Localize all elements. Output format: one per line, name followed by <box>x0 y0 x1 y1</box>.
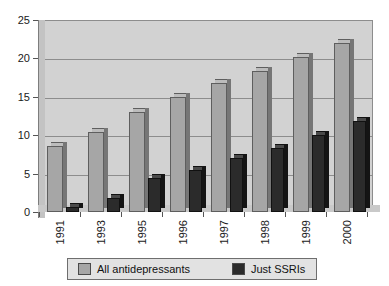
x-tick-label-1993: 1993 <box>95 220 107 244</box>
y-tick-label: 10 <box>2 130 30 141</box>
legend-entry-all-antidepressants: All antidepressants <box>78 259 190 279</box>
bar-side-face <box>63 142 67 208</box>
bar-all-antidepressants-1999 <box>293 57 309 212</box>
bar-front-face <box>334 43 350 212</box>
y-tick-label: 25 <box>2 15 30 26</box>
bar-front-face <box>353 121 366 212</box>
legend-entry-just-ssris: Just SSRIs <box>232 259 305 279</box>
bar-just-ssris-1999 <box>312 135 325 212</box>
bar-side-face <box>284 144 288 208</box>
bar-front-face <box>148 178 161 212</box>
bar-just-ssris-1997 <box>230 158 243 212</box>
x-tick-mark <box>39 212 40 217</box>
x-tick-mark <box>367 212 368 217</box>
bar-side-face <box>202 166 206 208</box>
bar-all-antidepressants-1998 <box>252 71 268 212</box>
bar-front-face <box>293 57 309 212</box>
bar-side-face <box>325 131 329 208</box>
x-tick-label-1997: 1997 <box>218 220 230 244</box>
y-tick-label: 20 <box>2 53 30 64</box>
bar-all-antidepressants-1996 <box>170 97 186 212</box>
y-tick-label: 5 <box>2 169 30 180</box>
bar-just-ssris-1996 <box>189 170 202 212</box>
x-tick-label-1998: 1998 <box>259 220 271 244</box>
bar-front-face <box>170 97 186 212</box>
x-tick-mark <box>203 212 204 217</box>
x-tick-mark <box>162 212 163 217</box>
bar-front-face <box>189 170 202 212</box>
x-tick-mark <box>121 212 122 217</box>
bar-all-antidepressants-1995 <box>129 112 145 212</box>
bar-all-antidepressants-1997 <box>211 83 227 212</box>
y-tick-label: 0 <box>2 207 30 218</box>
bar-just-ssris-1995 <box>148 178 161 212</box>
bar-front-face <box>312 135 325 212</box>
bar-just-ssris-2000 <box>353 121 366 212</box>
x-tick-mark <box>244 212 245 217</box>
bar-front-face <box>252 71 268 212</box>
x-tick-label-1999: 1999 <box>300 220 312 244</box>
x-tick-label-1996: 1996 <box>177 220 189 244</box>
bars-layer <box>38 20 373 212</box>
legend-swatch-icon <box>78 263 91 275</box>
bar-front-face <box>230 158 243 212</box>
bar-chart: 25 20 15 10 5 0 <box>0 0 389 286</box>
bar-all-antidepressants-2000 <box>334 43 350 212</box>
bar-side-face <box>120 194 124 208</box>
bar-all-antidepressants-1991 <box>47 146 63 212</box>
bar-side-face <box>79 203 83 208</box>
legend-label: Just SSRIs <box>251 263 305 275</box>
bar-front-face <box>88 132 104 212</box>
y-tick-label: 15 <box>2 92 30 103</box>
bar-front-face <box>107 198 120 212</box>
bar-front-face <box>271 148 284 212</box>
x-tick-mark <box>80 212 81 217</box>
y-axis: 25 20 15 10 5 0 <box>0 0 30 286</box>
bar-side-face <box>366 117 370 208</box>
bar-side-face <box>104 128 108 208</box>
x-tick-mark <box>326 212 327 217</box>
bar-front-face <box>129 112 145 212</box>
bar-all-antidepressants-1993 <box>88 132 104 212</box>
bar-front-face <box>47 146 63 212</box>
x-tick-label-2000: 2000 <box>341 220 353 244</box>
x-tick-label-1995: 1995 <box>136 220 148 244</box>
bar-just-ssris-1993 <box>107 198 120 212</box>
x-tick-label-1991: 1991 <box>54 220 66 244</box>
x-axis: 1991 1993 1995 1996 1997 1998 1999 2000 <box>38 212 373 257</box>
bar-side-face <box>161 174 165 208</box>
x-tick-mark <box>285 212 286 217</box>
bar-side-face <box>243 154 247 208</box>
chart-legend: All antidepressants Just SSRIs <box>67 258 317 280</box>
legend-label: All antidepressants <box>97 263 190 275</box>
bar-just-ssris-1998 <box>271 148 284 212</box>
legend-swatch-icon <box>232 263 245 275</box>
bar-front-face <box>211 83 227 212</box>
